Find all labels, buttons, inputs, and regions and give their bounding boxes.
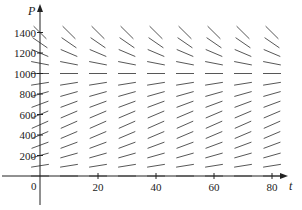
slope-segment bbox=[61, 49, 78, 56]
slope-segment bbox=[90, 101, 107, 107]
slope-segment bbox=[148, 101, 165, 107]
slope-segment bbox=[120, 38, 135, 48]
slope-segment bbox=[206, 131, 223, 138]
slope-segment bbox=[90, 111, 107, 118]
slope-segment bbox=[60, 164, 78, 167]
slope-segment bbox=[119, 111, 136, 118]
y-tick-label: 200 bbox=[20, 150, 37, 162]
slope-segment bbox=[176, 92, 193, 97]
slope-segment bbox=[234, 164, 252, 167]
slope-segment bbox=[176, 164, 194, 167]
slope-segment bbox=[148, 49, 165, 56]
slope-segment bbox=[176, 153, 193, 158]
y-ticks: 200400600800100012001400 bbox=[14, 27, 43, 162]
slope-segment bbox=[118, 164, 136, 167]
slope-segment bbox=[177, 111, 194, 118]
slope-segment bbox=[61, 131, 78, 138]
x-tick-label: 20 bbox=[93, 181, 105, 193]
y-tick-label: 600 bbox=[20, 109, 37, 121]
slope-segment bbox=[177, 131, 194, 138]
slope-segment bbox=[176, 82, 194, 85]
slope-segment bbox=[235, 121, 251, 128]
slope-segment bbox=[119, 101, 136, 107]
x-tick-label: 80 bbox=[267, 181, 279, 193]
slope-segment bbox=[264, 111, 281, 118]
direction-field-chart: 20406080 200400600800100012001400 t P 0 bbox=[0, 0, 302, 210]
y-axis-arrow-icon bbox=[37, 4, 43, 12]
slope-segment bbox=[264, 49, 281, 56]
slope-segment bbox=[148, 131, 165, 138]
slope-segment bbox=[178, 38, 193, 48]
y-axis-label: P bbox=[27, 4, 36, 18]
slope-segment bbox=[147, 92, 164, 97]
slope-segment bbox=[207, 38, 222, 48]
slope-segment bbox=[206, 49, 223, 56]
slope-segment bbox=[263, 92, 280, 97]
slope-segment bbox=[90, 142, 107, 148]
slope-segment bbox=[60, 92, 77, 97]
slope-segment bbox=[118, 153, 135, 158]
slope-segment bbox=[206, 111, 223, 118]
slope-segment bbox=[206, 121, 222, 128]
slope-segment bbox=[234, 62, 252, 65]
slope-segment bbox=[234, 92, 251, 97]
slope-segment bbox=[118, 62, 136, 65]
slope-segment bbox=[62, 38, 77, 48]
origin-label: 0 bbox=[31, 180, 37, 192]
slope-segment bbox=[263, 164, 281, 167]
y-tick-label: 800 bbox=[20, 88, 37, 100]
slope-segment bbox=[121, 26, 134, 39]
slope-segment bbox=[119, 49, 136, 56]
slope-segments bbox=[31, 26, 281, 176]
x-tick-label: 40 bbox=[151, 181, 163, 193]
slope-segment bbox=[89, 164, 107, 167]
slope-segment bbox=[235, 49, 252, 56]
slope-segment bbox=[61, 111, 78, 118]
slope-segment bbox=[205, 82, 223, 85]
slope-segment bbox=[92, 26, 105, 39]
slope-segment bbox=[90, 121, 106, 128]
slope-segment bbox=[147, 62, 165, 65]
slope-segment bbox=[60, 153, 77, 158]
slope-segment bbox=[147, 153, 164, 158]
slope-segment bbox=[90, 131, 107, 138]
slope-segment bbox=[91, 38, 106, 48]
slope-segment bbox=[236, 38, 251, 48]
slope-segment bbox=[148, 142, 165, 148]
slope-segment bbox=[264, 142, 281, 148]
slope-segment bbox=[118, 82, 136, 85]
slope-segment bbox=[234, 82, 252, 85]
slope-segment bbox=[118, 92, 135, 97]
y-tick-label: 1400 bbox=[14, 27, 37, 39]
slope-segment bbox=[63, 26, 76, 39]
slope-segment bbox=[263, 82, 281, 85]
slope-segment bbox=[60, 62, 78, 65]
slope-segment bbox=[177, 142, 194, 148]
slope-segment bbox=[177, 101, 194, 107]
slope-segment bbox=[235, 101, 252, 107]
slope-segment bbox=[150, 26, 163, 39]
slope-segment bbox=[205, 92, 222, 97]
slope-segment bbox=[119, 142, 136, 148]
slope-segment bbox=[60, 82, 78, 85]
slope-segment bbox=[205, 164, 223, 167]
slope-segment bbox=[206, 142, 223, 148]
slope-segment bbox=[89, 92, 106, 97]
slope-segment bbox=[176, 62, 194, 65]
slope-segment bbox=[263, 153, 280, 158]
slope-segment bbox=[208, 26, 221, 39]
slope-segment bbox=[263, 62, 281, 65]
slope-segment bbox=[266, 26, 279, 39]
slope-segment bbox=[206, 101, 223, 107]
slope-segment bbox=[237, 26, 250, 39]
slope-segment bbox=[264, 101, 281, 107]
slope-segment bbox=[235, 131, 252, 138]
slope-segment bbox=[90, 49, 107, 56]
slope-segment bbox=[234, 153, 251, 158]
slope-segment bbox=[89, 62, 107, 65]
slope-segment bbox=[61, 142, 78, 148]
slope-segment bbox=[264, 131, 281, 138]
slope-segment bbox=[89, 153, 106, 158]
slope-segment bbox=[147, 164, 165, 167]
plot-area: 20406080 200400600800100012001400 t P 0 bbox=[0, 0, 302, 210]
